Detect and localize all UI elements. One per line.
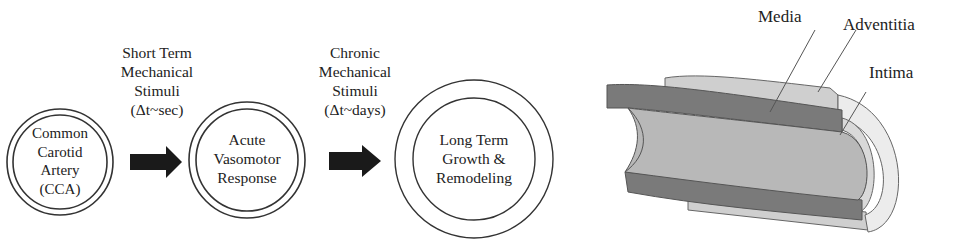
stimulus-chronic: Chronic Mechanical Stimuli (Δt~days) <box>300 43 410 119</box>
right-arrow-icon <box>130 146 182 178</box>
stimulus-line: Stimuli <box>300 81 410 100</box>
node-line: Acute <box>197 130 297 149</box>
adventitia-leader-line <box>818 30 856 92</box>
node-line: Carotid <box>20 143 100 162</box>
node-line: Remodeling <box>419 168 529 187</box>
stimulus-line: Chronic <box>300 43 410 62</box>
node-longterm-label: Long Term Growth & Remodeling <box>419 130 529 187</box>
right-arrow-icon <box>329 145 381 177</box>
node-acute-label: Acute Vasomotor Response <box>197 130 297 187</box>
node-cca-label: Common Carotid Artery (CCA) <box>20 124 100 198</box>
label-intima: Intima <box>869 63 913 83</box>
node-line: Response <box>197 168 297 187</box>
stimulus-line: Stimuli <box>102 81 212 100</box>
node-line: (CCA) <box>20 180 100 199</box>
stimulus-line: (Δt~sec) <box>102 100 212 119</box>
label-media: Media <box>758 7 801 27</box>
node-line: Common <box>20 124 100 143</box>
diagram-graphics <box>0 0 956 247</box>
node-line: Long Term <box>419 130 529 149</box>
vessel-cutaway <box>607 30 899 232</box>
stimulus-short-term: Short Term Mechanical Stimuli (Δt~sec) <box>102 43 212 119</box>
node-line: Growth & <box>419 149 529 168</box>
node-line: Vasomotor <box>197 149 297 168</box>
label-adventitia: Adventitia <box>843 15 915 35</box>
stimulus-line: Mechanical <box>102 62 212 81</box>
node-line: Artery <box>20 161 100 180</box>
stimulus-line: Short Term <box>102 43 212 62</box>
stimulus-line: (Δt~days) <box>300 100 410 119</box>
stimulus-line: Mechanical <box>300 62 410 81</box>
